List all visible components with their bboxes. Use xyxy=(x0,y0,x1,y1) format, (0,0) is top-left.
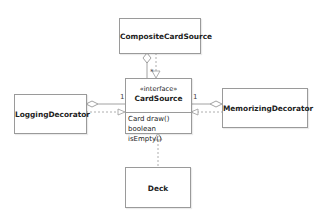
class-name: CompositeCardSource xyxy=(120,32,200,41)
class-name: MemorizingDecorator xyxy=(223,104,307,113)
class-logging-decorator[interactable]: LoggingDecorator xyxy=(14,94,87,134)
interface-header: «interface» CardSource xyxy=(126,79,191,113)
aggregation-diamond-icon xyxy=(210,101,222,107)
multiplicity-logging: 1 xyxy=(120,93,124,101)
multiplicity-composite: * xyxy=(150,68,154,76)
aggregation-diamond-icon xyxy=(143,53,151,63)
class-memorizing-decorator[interactable]: MemorizingDecorator xyxy=(222,88,308,128)
realization-arrow-icon xyxy=(118,109,125,115)
interface-card-source[interactable]: «interface» CardSource Card draw() boole… xyxy=(125,78,192,134)
interface-name: CardSource xyxy=(126,94,191,103)
multiplicity-memorizing: 1 xyxy=(193,93,197,101)
class-name: Deck xyxy=(126,183,190,192)
aggregation-diamond-icon xyxy=(86,101,98,107)
realization-arrow-icon xyxy=(191,109,198,115)
method-draw: Card draw() xyxy=(128,114,191,124)
stereotype-label: «interface» xyxy=(126,85,191,93)
class-deck[interactable]: Deck xyxy=(125,167,191,208)
method-is-empty: boolean isEmpty() xyxy=(128,124,191,144)
method-list: Card draw() boolean isEmpty() xyxy=(128,114,191,144)
class-composite-card-source[interactable]: CompositeCardSource xyxy=(119,18,201,54)
class-name: LoggingDecorator xyxy=(15,110,86,119)
